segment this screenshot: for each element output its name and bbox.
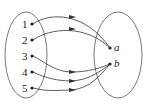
arrowhead-icon [69,88,76,92]
domain-label-3: 3 [22,50,28,62]
arrowhead-icon [69,15,76,19]
mapping-diagram: 1 2 3 4 5 a b [0,0,143,107]
domain-point-2 [30,38,33,41]
codomain-label-b: b [114,57,120,69]
domain-label-4: 4 [22,66,28,78]
domain-point-4 [30,70,33,73]
domain-elements: 1 2 3 4 5 [22,18,34,94]
codomain-point-a [108,46,111,49]
domain-label-5: 5 [22,82,28,94]
codomain-set-ellipse [94,12,142,98]
codomain-elements: a b [108,41,120,69]
arrow-3-to-b [33,56,110,72]
arrowhead-icon [69,79,76,83]
domain-label-1: 1 [22,18,28,30]
domain-point-1 [30,22,33,25]
codomain-label-a: a [114,41,120,53]
arrow-2-to-a [33,30,110,48]
domain-label-2: 2 [22,34,28,46]
domain-point-5 [30,86,33,89]
arrowhead-icon [69,70,76,74]
domain-point-3 [30,54,33,57]
codomain-point-b [108,62,111,65]
arrow-1-to-a [33,17,110,48]
